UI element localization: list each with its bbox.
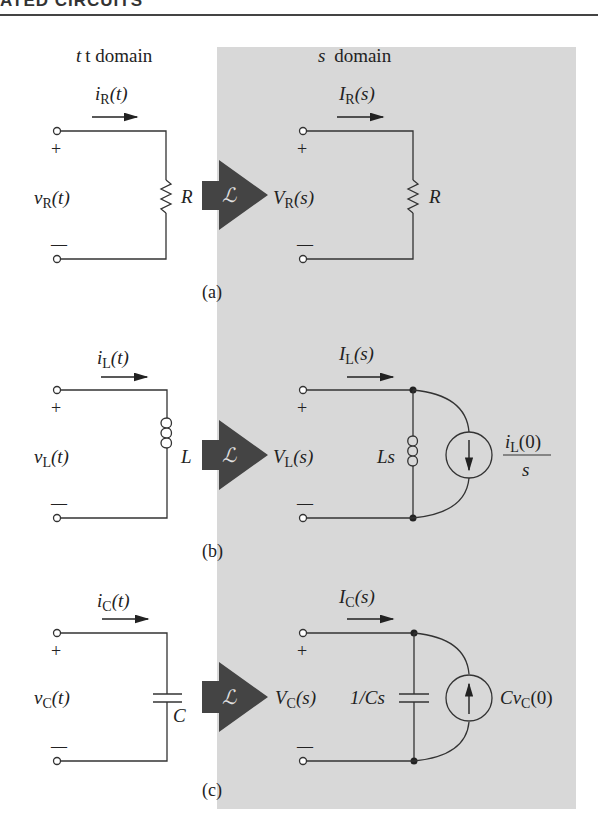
terminal-icon: [54, 128, 61, 135]
terminal-icon: [300, 256, 307, 263]
voltage-label-vC-t: vC(t): [34, 687, 70, 711]
minus-sign: —: [296, 235, 314, 252]
capacitor-label: C: [173, 705, 186, 726]
minus-sign: —: [50, 235, 68, 252]
current-label-iC-t: iC(t): [97, 590, 130, 614]
plus-sign: +: [51, 641, 61, 661]
capacitor-label-1-over-Cs: 1/Cs: [350, 687, 385, 708]
plus-sign: +: [51, 139, 61, 159]
laplace-symbol: ℒ: [222, 443, 237, 467]
minus-sign: —: [50, 494, 68, 511]
voltage-label-VC-s: VC(s): [275, 687, 316, 711]
voltage-label-VR-s: VR(s): [273, 187, 314, 211]
source-numerator: iL(0): [505, 431, 541, 455]
voltage-label-vR-t: vR(t): [34, 187, 70, 211]
terminal-icon: [54, 256, 61, 263]
plus-sign: +: [297, 641, 307, 661]
panel-label-b: (b): [202, 541, 223, 562]
voltage-label-vL-t: vL(t): [34, 446, 69, 470]
resistor-label: R: [428, 186, 441, 207]
resistor-icon: [408, 180, 418, 213]
laplace-symbol: ℒ: [222, 685, 237, 709]
panel-a: iR(t) + — vR(t) R ℒ IR(s) + — VR(s) R (a…: [34, 83, 441, 303]
terminal-icon: [300, 515, 307, 522]
minus-sign: —: [50, 737, 68, 754]
inductor-label-Ls: Ls: [376, 446, 395, 467]
terminal-icon: [54, 387, 61, 394]
resistor-icon: [161, 180, 171, 213]
voltage-label-VL-s: VL(s): [273, 446, 313, 470]
current-label-iL-t: iL(t): [97, 347, 129, 371]
inductor-icon: [161, 418, 167, 448]
panel-label-c: (c): [202, 780, 222, 801]
terminal-icon: [54, 515, 61, 522]
plus-sign: +: [51, 398, 61, 418]
plus-sign: +: [297, 398, 307, 418]
terminal-icon: [54, 630, 61, 637]
panel-b: iL(t) + — vL(t) L ℒ IL(s) + — VL(s) Ls i…: [34, 343, 551, 562]
inductor-icon: [408, 436, 418, 466]
source-label-CvC0: CvC(0): [500, 687, 553, 711]
t-domain-title: tt domain: [76, 45, 153, 66]
s-domain-title: s domain: [318, 45, 392, 66]
terminal-icon: [54, 758, 61, 765]
minus-sign: —: [296, 737, 314, 754]
current-label-IL-s: IL(s): [338, 343, 374, 367]
current-label-IR-s: IR(s): [338, 83, 375, 107]
panel-label-a: (a): [202, 282, 222, 303]
minus-sign: —: [296, 494, 314, 511]
terminal-icon: [300, 758, 307, 765]
plus-sign: +: [297, 139, 307, 159]
terminal-icon: [300, 630, 307, 637]
terminal-icon: [300, 128, 307, 135]
current-label-iR-t: iR(t): [95, 83, 128, 107]
laplace-circuit-diagram: tt domain s domain iR(t) + — vR(t) R ℒ I…: [0, 0, 598, 839]
terminal-icon: [300, 387, 307, 394]
resistor-label: R: [180, 186, 193, 207]
laplace-symbol: ℒ: [222, 183, 237, 207]
panel-c: iC(t) + — vC(t) C ℒ IC(s) + — VC(s) 1/Cs: [34, 586, 553, 801]
inductor-label: L: [180, 446, 192, 467]
source-denominator: s: [522, 459, 529, 480]
current-label-IC-s: IC(s): [338, 586, 375, 610]
